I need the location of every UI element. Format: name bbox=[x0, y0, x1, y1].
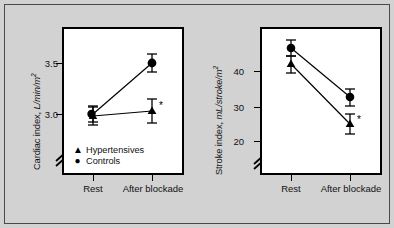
right-y-axis-label-text: Stroke index, bbox=[214, 120, 224, 175]
left-plot-panel: * ▲ Hypertensives ● Controls bbox=[62, 27, 184, 175]
left-y-axis-label-sup: 2 bbox=[30, 74, 37, 78]
right-y-axis-label-unit: mL/stroke/m bbox=[214, 70, 224, 120]
right-ytick-label-30: 30 bbox=[224, 102, 244, 113]
left-significance-asterisk: * bbox=[159, 103, 163, 109]
right-xtick-label-rest: Rest bbox=[271, 183, 311, 194]
left-xtick-label-after-blockade: After blockade bbox=[117, 183, 189, 194]
right-xtick-mark-rest bbox=[291, 175, 292, 181]
left-y-axis-label-unit: L/min/m bbox=[32, 77, 42, 109]
right-plot-area bbox=[260, 27, 382, 175]
right-ytick-label-40: 40 bbox=[224, 66, 244, 77]
left-xtick-mark-after-blockade bbox=[152, 175, 153, 181]
figure-root: Cardiac index, L/min/m2 3.5 3.0 bbox=[0, 0, 394, 228]
right-y-axis-label-sup: 2 bbox=[212, 66, 219, 70]
legend-item-hypertensives: ▲ Hypertensives bbox=[73, 145, 144, 156]
left-ytick-label-3-0: 3.0 bbox=[38, 109, 58, 120]
left-xtick-mark-rest bbox=[93, 175, 94, 181]
right-xtick-mark-after-blockade bbox=[350, 175, 351, 181]
right-plot-panel: * bbox=[260, 27, 382, 175]
circle-marker-icon: ● bbox=[73, 156, 82, 167]
legend-item-controls: ● Controls bbox=[73, 156, 144, 167]
right-ytick-label-20: 20 bbox=[224, 136, 244, 147]
left-legend: ▲ Hypertensives ● Controls bbox=[73, 145, 144, 166]
right-y-axis-label: Stroke index, mL/stroke/m2 bbox=[212, 66, 224, 175]
left-ytick-label-3-5: 3.5 bbox=[38, 58, 58, 69]
legend-label-hypertensives: Hypertensives bbox=[86, 145, 144, 156]
legend-label-controls: Controls bbox=[86, 156, 120, 167]
right-xtick-label-after-blockade: After blockade bbox=[315, 183, 387, 194]
left-y-axis-label: Cardiac index, L/min/m2 bbox=[30, 74, 42, 170]
right-significance-asterisk: * bbox=[357, 117, 361, 123]
triangle-marker-icon: ▲ bbox=[73, 145, 82, 156]
left-xtick-label-rest: Rest bbox=[73, 183, 113, 194]
